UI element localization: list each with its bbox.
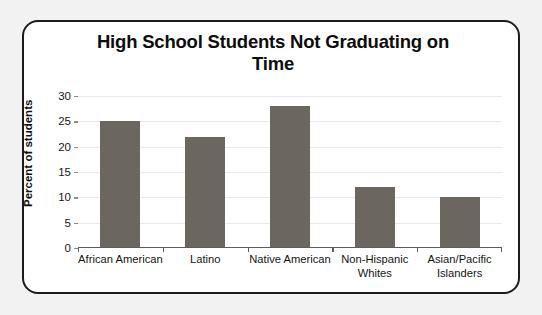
y-axis-title: Percent of students <box>22 100 34 207</box>
y-axis-tick <box>74 197 78 198</box>
y-axis-tick <box>74 223 78 224</box>
y-axis-tick <box>74 147 78 148</box>
chart-title-line-1: High School Students Not Graduating on <box>52 31 494 53</box>
y-axis-tick <box>74 121 78 122</box>
chart-figure-frame: High School Students Not Graduating on T… <box>22 20 520 294</box>
x-axis-category-label: Asian/PacificIslanders <box>408 252 511 280</box>
bar <box>100 121 140 248</box>
bar <box>185 137 225 248</box>
chart-title-line-2: Time <box>52 53 494 75</box>
y-axis-tick-label: 15 <box>58 166 71 178</box>
bar <box>440 197 480 248</box>
bar <box>355 187 395 248</box>
y-axis-tick-label: 30 <box>58 90 71 102</box>
x-axis-category-label-line: Islanders <box>408 266 511 280</box>
gridline <box>78 96 502 97</box>
y-axis-tick-label: 10 <box>58 191 71 203</box>
plot-area: 051015202530 <box>78 96 502 248</box>
x-axis-category-label-line: Asian/Pacific <box>408 252 511 266</box>
x-axis-line <box>78 247 502 248</box>
bar <box>270 106 310 248</box>
x-axis-category-labels: African AmericanLatinoNative AmericanNon… <box>78 252 502 292</box>
chart-title: High School Students Not Graduating on T… <box>52 31 494 75</box>
y-axis-tick <box>74 96 78 97</box>
y-axis-tick <box>74 172 78 173</box>
y-axis-tick-label: 5 <box>65 217 71 229</box>
y-axis-tick-label: 25 <box>58 115 71 127</box>
y-axis-tick-label: 20 <box>58 141 71 153</box>
